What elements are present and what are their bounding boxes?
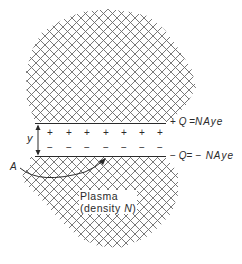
lower-plate-charge-label: − Q= − NAye [170,151,234,161]
gap-label: y [27,133,33,144]
plasma-label-line1: Plasma [80,190,136,202]
upper-rhs: NAye [195,116,223,127]
upper-plate-charge-label: + Q =NAye [170,117,223,127]
negative-charge: − [47,143,53,153]
gap-arrow-icon [36,125,41,156]
positive-charge: + [66,128,72,138]
negative-charge: − [139,143,145,153]
upper-sign: + [170,116,176,127]
plasma-label-line2: (density N) [80,202,136,214]
lower-rhs: − NAye [195,150,234,161]
density-prefix: (density [80,202,124,214]
upper-hatched-region [0,0,242,125]
positive-charge: + [47,128,53,138]
area-label: A [10,162,17,172]
lower-eq: = [186,150,192,161]
positive-charge: + [103,128,109,138]
plasma-region-label: Plasma (density N) [79,190,137,214]
positive-charge: + [84,128,90,138]
negative-charge: − [66,143,72,153]
positive-charge: + [139,128,145,138]
positive-charge: + [121,128,127,138]
negative-charge: − [103,143,109,153]
positive-charge: + [157,128,163,138]
negative-charge: − [157,143,163,153]
upper-q: Q [179,116,187,127]
negative-charge: − [121,143,127,153]
negative-charge: − [84,143,90,153]
density-suffix: ) [132,202,136,214]
lower-sign: − [170,150,176,161]
